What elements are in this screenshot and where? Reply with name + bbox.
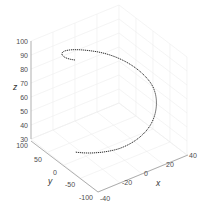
y-tick-neg50: -50 [65, 181, 75, 188]
y-tick-neg100: -100 [79, 194, 93, 201]
x-tick-labels: -40 -20 0 20 40 [100, 152, 197, 202]
z-tick-40: 40 [20, 122, 28, 129]
z-axis-label: z [12, 82, 18, 92]
z-tick-80: 80 [20, 66, 28, 73]
y-tick-0: 0 [53, 169, 57, 176]
x-axis-label: x [155, 178, 161, 188]
x-tick-40: 40 [189, 152, 197, 159]
y-tick-50: 50 [34, 156, 42, 163]
x-tick-0: 0 [144, 170, 148, 177]
z-tick-100: 100 [16, 38, 28, 45]
z-tick-labels: 100 90 80 70 60 50 40 30 [16, 38, 28, 143]
x-axis-line [98, 155, 188, 192]
x-tick-20: 20 [166, 161, 174, 168]
y-tick-labels: 100 50 0 -50 -100 [16, 142, 93, 201]
plot-3d-axes: 100 90 80 70 60 50 40 30 z 100 50 0 -50 … [0, 0, 208, 206]
x-tick-neg40: -40 [100, 195, 110, 202]
x-tick-neg20: -20 [122, 179, 132, 186]
z-tick-70: 70 [20, 80, 28, 87]
grid-lines [31, 5, 187, 192]
figure: 100 90 80 70 60 50 40 30 z 100 50 0 -50 … [0, 0, 208, 206]
z-tick-50: 50 [20, 108, 28, 115]
z-tick-60: 60 [20, 94, 28, 101]
y-axis-label: y [47, 176, 53, 186]
y-tick-100: 100 [16, 142, 28, 149]
z-tick-90: 90 [20, 52, 28, 59]
